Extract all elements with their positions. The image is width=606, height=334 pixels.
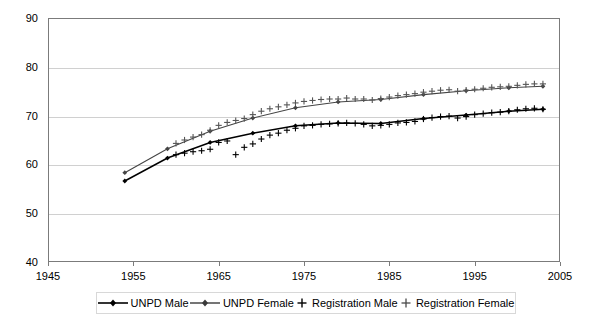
y-tick-label-40: 40 xyxy=(4,257,38,268)
legend-item-unpd-male[interactable]: UNPD Male xyxy=(98,297,189,309)
legend-item-registration-male[interactable]: Registration Male xyxy=(295,297,398,309)
legend-label-registration-female: Registration Female xyxy=(416,297,514,309)
x-tick-label-1955: 1955 xyxy=(103,271,163,282)
y-tick-label-50: 50 xyxy=(4,208,38,219)
x-tick-label-1985: 1985 xyxy=(359,271,419,282)
y-tick-label-70: 70 xyxy=(4,111,38,122)
chart-legend: UNPD Male UNPD Female Registration Male … xyxy=(96,292,516,314)
line-diamond-marker-icon xyxy=(98,298,128,308)
x-tick-label-1995: 1995 xyxy=(445,271,505,282)
y-tick-label-90: 90 xyxy=(4,13,38,24)
legend-item-unpd-female[interactable]: UNPD Female xyxy=(190,297,294,309)
x-tick-1965 xyxy=(219,262,220,266)
x-tick-1955 xyxy=(133,262,134,266)
x-tick-1995 xyxy=(475,262,476,266)
y-tick-label-60: 60 xyxy=(4,159,38,170)
x-tick-1975 xyxy=(304,262,305,266)
legend-label-unpd-female: UNPD Female xyxy=(223,297,294,309)
x-tick-label-1965: 1965 xyxy=(189,271,249,282)
x-tick-label-1945: 1945 xyxy=(18,271,78,282)
x-tick-label-1975: 1975 xyxy=(274,271,334,282)
series-unpd-female xyxy=(122,84,545,175)
legend-label-registration-male: Registration Male xyxy=(312,297,398,309)
x-tick-2005 xyxy=(560,262,561,266)
legend-label-unpd-male: UNPD Male xyxy=(131,297,189,309)
plus-marker-icon xyxy=(399,297,413,309)
x-tick-label-2005: 2005 xyxy=(530,271,590,282)
series-unpd-male xyxy=(122,107,545,184)
x-tick-1945 xyxy=(48,262,49,266)
x-tick-1985 xyxy=(389,262,390,266)
y-tick-label-80: 80 xyxy=(4,62,38,73)
legend-item-registration-female[interactable]: Registration Female xyxy=(399,297,514,309)
life-expectancy-chart: 90 80 70 60 50 40 1945 1955 1965 1975 19… xyxy=(0,0,606,334)
line-diamond-marker-icon xyxy=(190,298,220,308)
series-registration-male xyxy=(173,105,546,158)
data-series-layer xyxy=(48,18,560,262)
plus-marker-icon xyxy=(295,297,309,309)
